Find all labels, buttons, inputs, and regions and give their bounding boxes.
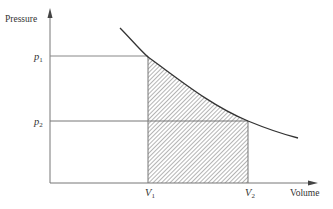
p2-label: p2	[33, 116, 43, 129]
y-axis-arrow-icon	[48, 8, 53, 18]
x-axis-label: Volume	[290, 188, 319, 198]
y-axis-label: Pressure	[5, 14, 37, 24]
hatched-work-area	[148, 57, 248, 183]
v2-label: V2	[245, 187, 255, 200]
p1-label: p1	[33, 51, 43, 64]
v1-label: V1	[145, 187, 155, 200]
y-axis	[48, 8, 53, 183]
x-axis-arrow-icon	[308, 181, 318, 186]
pv-diagram: Pressure Volume p1 p2 V1 V2	[0, 0, 333, 209]
